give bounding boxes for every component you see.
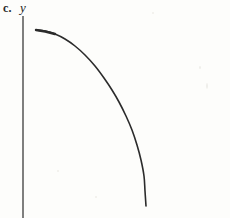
figure-container: c. y [0, 0, 230, 218]
part-label: c. [3, 1, 12, 15]
y-axis-label: y [20, 0, 26, 16]
graph-drawing [0, 0, 230, 218]
function-curve-start-stroke [36, 30, 55, 34]
function-curve [36, 30, 146, 206]
